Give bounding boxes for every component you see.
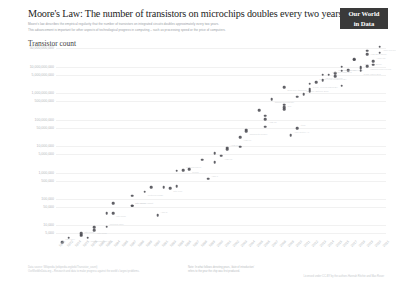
data-point[interactable] xyxy=(188,168,191,171)
data-point[interactable] xyxy=(93,229,96,232)
y-axis-tick-label: 5,000,000 xyxy=(38,152,54,156)
data-point-label: Intel 80186 variant xyxy=(135,202,153,204)
data-point[interactable] xyxy=(163,186,166,189)
data-point[interactable] xyxy=(112,202,115,205)
data-point[interactable] xyxy=(378,45,381,48)
grid-line xyxy=(56,207,386,208)
data-point[interactable] xyxy=(169,187,172,190)
y-axis-tick-label: 10,000,000,000 xyxy=(30,65,54,69)
data-point[interactable] xyxy=(112,212,115,215)
data-point[interactable] xyxy=(67,236,70,239)
data-point[interactable] xyxy=(264,114,267,117)
footer-note-line-2: refers to the year the chip was first pr… xyxy=(188,270,384,274)
grid-line xyxy=(56,101,386,102)
data-point[interactable] xyxy=(309,82,312,85)
data-point-label: ARM 7 xyxy=(211,175,218,177)
data-point[interactable] xyxy=(328,73,331,76)
data-point[interactable] xyxy=(220,154,223,157)
footer-source-line-2: OurWorldInData.org – Research and data t… xyxy=(28,270,178,274)
data-point[interactable] xyxy=(290,134,293,137)
data-point[interactable] xyxy=(353,59,356,62)
data-point[interactable] xyxy=(359,69,362,72)
data-point-label: Intel 8088 xyxy=(116,215,126,217)
data-point[interactable] xyxy=(144,190,147,193)
data-point[interactable] xyxy=(283,86,286,89)
data-point[interactable] xyxy=(80,232,83,235)
grid-line xyxy=(56,199,386,200)
data-point-label: Dual-core Itanium 2 xyxy=(287,89,306,91)
grid-line xyxy=(56,120,386,121)
data-point[interactable] xyxy=(321,73,324,76)
logo-line-1: Our World xyxy=(340,9,388,19)
data-point[interactable] xyxy=(150,186,153,189)
data-point[interactable] xyxy=(340,84,343,87)
y-axis-tick-label: 1,000,000 xyxy=(38,171,54,175)
data-point[interactable] xyxy=(175,169,178,172)
data-point[interactable] xyxy=(156,214,159,217)
data-point[interactable] xyxy=(334,75,337,78)
data-point[interactable] xyxy=(213,161,216,164)
data-point[interactable] xyxy=(366,53,369,56)
data-point[interactable] xyxy=(347,69,350,72)
grid-line xyxy=(56,173,386,174)
grid-line xyxy=(56,48,386,49)
chart-subtitle-line-1: Moore's law describes the empirical regu… xyxy=(28,22,340,26)
data-point[interactable] xyxy=(340,65,343,68)
data-point[interactable] xyxy=(93,226,96,229)
data-point[interactable] xyxy=(378,51,381,54)
data-point[interactable] xyxy=(315,81,318,84)
data-point-label: Transmeta Crusoe xyxy=(249,133,267,135)
page-title: Moore's Law: The number of transistors o… xyxy=(28,8,340,20)
data-point[interactable] xyxy=(105,212,108,215)
data-point[interactable] xyxy=(131,194,134,197)
y-axis-tick-label: 500,000 xyxy=(41,179,54,183)
data-point-label: Atom xyxy=(300,124,305,126)
our-world-in-data-logo[interactable]: Our World in Data xyxy=(340,8,388,29)
data-point[interactable] xyxy=(175,185,178,188)
data-point[interactable] xyxy=(302,93,305,96)
y-axis-tick-label: 100,000,000 xyxy=(35,118,54,122)
data-point-label: Motorola 68020 xyxy=(148,194,163,196)
data-point[interactable] xyxy=(182,169,185,172)
data-point[interactable] xyxy=(264,118,267,121)
data-point-label: ARM 2 xyxy=(161,211,168,213)
grid-line xyxy=(56,146,386,147)
footer-license: Licensed under CC-BY by the authors Hann… xyxy=(28,275,384,279)
data-point[interactable] xyxy=(245,130,248,133)
y-axis-tick-label: 1,000,000,000 xyxy=(32,91,54,95)
data-point[interactable] xyxy=(213,152,216,155)
data-point[interactable] xyxy=(264,125,267,128)
y-axis-tick-label: 50,000,000,000 xyxy=(30,46,54,50)
data-point[interactable] xyxy=(334,72,337,75)
data-point-label: AMD K7 xyxy=(243,139,251,141)
data-point[interactable] xyxy=(239,136,242,139)
data-point[interactable] xyxy=(296,95,299,98)
grid-line xyxy=(56,93,386,94)
data-point-label: Motorola 6809 xyxy=(110,223,124,225)
chart-footer: Data source: Wikipedia (wikipedia.org/wi… xyxy=(28,266,384,279)
data-point[interactable] xyxy=(207,178,210,181)
data-point[interactable] xyxy=(239,145,242,148)
data-point[interactable] xyxy=(131,205,134,208)
y-axis-tick-label: 500,000,000 xyxy=(35,99,54,103)
data-point[interactable] xyxy=(105,225,108,228)
data-point[interactable] xyxy=(258,109,261,112)
data-point[interactable] xyxy=(372,63,375,66)
data-point[interactable] xyxy=(366,65,369,68)
data-point[interactable] xyxy=(270,98,273,101)
y-axis-tick-label: 5,000,000,000 xyxy=(32,73,54,77)
grid-line xyxy=(56,67,386,68)
y-axis-tick-label: 50,000 xyxy=(43,205,54,209)
data-point[interactable] xyxy=(366,49,369,52)
data-point[interactable] xyxy=(283,106,286,109)
data-point[interactable] xyxy=(201,158,204,161)
data-point[interactable] xyxy=(309,88,312,91)
data-point[interactable] xyxy=(372,60,375,63)
data-point[interactable] xyxy=(321,79,324,82)
data-point[interactable] xyxy=(283,103,286,106)
data-point[interactable] xyxy=(296,127,299,130)
chart-subtitle-line-2: This advancement is important for other … xyxy=(28,28,340,32)
data-point[interactable] xyxy=(226,146,229,149)
data-point[interactable] xyxy=(340,69,343,72)
